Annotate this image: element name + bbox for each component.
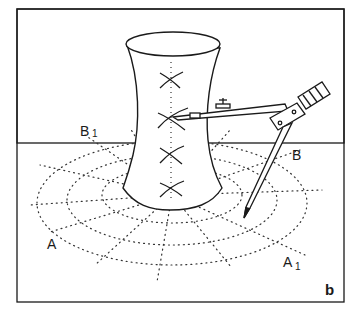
panel-label: b [325, 281, 334, 298]
label-b: B [292, 147, 301, 163]
label-b1: B [80, 123, 89, 139]
label-b1-subscript: 1 [92, 128, 98, 139]
label-a1: A [283, 254, 293, 270]
label-a1-subscript: 1 [295, 261, 301, 272]
label-a: A [47, 236, 57, 252]
figure-canvas: B 1 B A A 1 b [0, 0, 353, 320]
